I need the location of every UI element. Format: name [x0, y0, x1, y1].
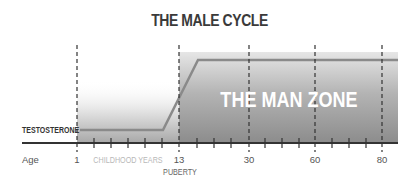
tick-label-60: 60: [310, 154, 321, 165]
puberty-label: PUBERTY: [163, 167, 197, 177]
tick-label-30: 30: [244, 154, 255, 165]
childhood-fill: [77, 80, 179, 143]
childhood-label: CHILDHOOD YEARS: [93, 155, 163, 165]
y-axis-label: TESTOSTERONE: [22, 125, 80, 135]
chart-plot: THE MAN ZONE TESTOSTERONE Age 1 CHILDHOO…: [0, 0, 419, 185]
man-zone-label: THE MAN ZONE: [220, 87, 357, 111]
tick-label-80: 80: [377, 154, 388, 165]
tick-label-1: 1: [74, 154, 79, 165]
tick-label-13: 13: [174, 154, 185, 165]
x-axis-label: Age: [22, 154, 39, 165]
